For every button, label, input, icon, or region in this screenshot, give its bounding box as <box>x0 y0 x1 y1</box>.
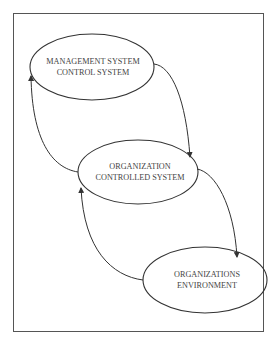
node-environment-line2: ENVIRONMENT <box>174 280 240 291</box>
node-organization-label: ORGANIZATION CONTROLLED SYSTEM <box>96 161 185 183</box>
arrow-environment-to-organization <box>81 188 143 280</box>
node-management-label: MANAGEMENT SYSTEM CONTROL SYSTEM <box>46 56 139 78</box>
arrow-organization-to-management <box>31 76 78 172</box>
arrow-management-to-organization <box>154 64 190 157</box>
node-environment-label: ORGANIZATIONS ENVIRONMENT <box>174 269 240 291</box>
node-organization-line2: CONTROLLED SYSTEM <box>96 172 185 183</box>
node-organization-line1: ORGANIZATION <box>96 161 185 172</box>
node-environment-line1: ORGANIZATIONS <box>174 269 240 280</box>
node-management-line1: MANAGEMENT SYSTEM <box>46 56 139 67</box>
node-management-line2: CONTROL SYSTEM <box>46 67 139 78</box>
arrow-organization-to-environment <box>197 169 237 257</box>
